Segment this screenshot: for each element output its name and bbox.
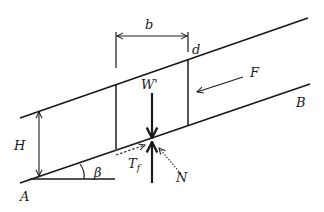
diagram-lines — [0, 0, 324, 212]
label-beta: β — [94, 166, 102, 179]
ground-surface-line — [20, 18, 308, 118]
label-d: d — [192, 43, 200, 56]
label-f: F — [250, 66, 259, 79]
beta-angle-arc — [80, 164, 84, 179]
side-force-arrow — [197, 77, 243, 92]
slip-plane-line — [20, 84, 310, 183]
label-b: b — [145, 18, 153, 31]
label-n: N — [176, 171, 187, 184]
label-h: H — [14, 139, 25, 152]
label-t-f: Tf — [128, 157, 140, 173]
label-w-prime: W' — [141, 78, 158, 91]
label-b-point: B — [296, 96, 306, 109]
shear-force-arrow — [116, 145, 145, 155]
slope-diagram: b d W' F B H β Tf N A — [0, 0, 324, 212]
label-a: A — [20, 190, 29, 203]
